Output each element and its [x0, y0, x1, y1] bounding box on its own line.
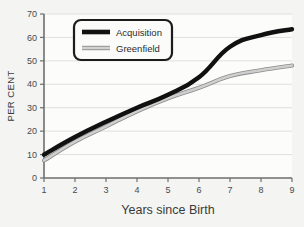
legend: Acquisition Greenfield — [74, 20, 172, 60]
y-tick-label: 0 — [32, 173, 37, 183]
x-tick-label: 8 — [258, 185, 263, 195]
x-tick-label: 2 — [72, 185, 77, 195]
x-tick-label: 4 — [134, 185, 139, 195]
y-tick-label: 30 — [27, 103, 37, 113]
line-chart: 010203040506070 123456789 Acquisition Gr… — [0, 0, 304, 227]
y-tick-label: 60 — [27, 33, 37, 43]
y-tick-label: 70 — [27, 9, 37, 19]
legend-label-acquisition: Acquisition — [116, 27, 162, 38]
y-tick-label: 10 — [27, 150, 37, 160]
y-tick-label: 20 — [27, 126, 37, 136]
x-tick-label: 6 — [196, 185, 201, 195]
x-tick-label: 9 — [289, 185, 294, 195]
y-tick-label: 50 — [27, 56, 37, 66]
y-tick-label: 40 — [27, 79, 37, 89]
x-tick-label: 5 — [165, 185, 170, 195]
x-tick-label: 7 — [227, 185, 232, 195]
x-tick-label: 1 — [41, 185, 46, 195]
x-tick-label: 3 — [103, 185, 108, 195]
x-axis-title: Years since Birth — [121, 203, 214, 217]
y-axis-title: PER CENT — [5, 70, 16, 121]
legend-label-greenfield: Greenfield — [116, 43, 160, 54]
